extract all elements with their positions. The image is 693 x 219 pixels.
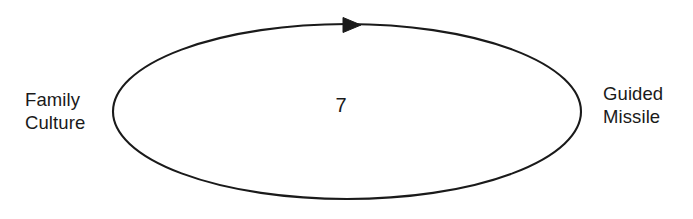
node-label-family-culture: Family Culture <box>25 88 85 134</box>
node-label-guided-missile: Guided Missile <box>603 82 663 128</box>
loop-value-label: 7 <box>327 93 355 117</box>
diagram-canvas: Family Culture Guided Missile 7 <box>0 0 693 219</box>
node-label-line: Missile <box>603 105 663 128</box>
node-label-line: Family <box>25 88 85 111</box>
arrowhead-icon <box>343 18 361 33</box>
node-label-line: Guided <box>603 82 663 105</box>
node-label-line: Culture <box>25 111 85 134</box>
